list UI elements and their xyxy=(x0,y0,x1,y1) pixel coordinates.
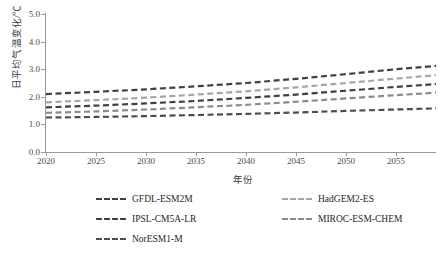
chart-figure: 日平均气温变化/℃ 年份 0.01.02.03.04.05.0 20202025… xyxy=(0,0,446,258)
legend-label: MIROC-ESM-CHEM xyxy=(318,214,402,224)
legend-item[interactable]: GFDL-ESM2M xyxy=(96,194,193,204)
legend-label: HadGEM2-ES xyxy=(318,194,374,204)
series-line xyxy=(46,93,436,113)
series-line xyxy=(46,84,436,107)
legend-item[interactable]: HadGEM2-ES xyxy=(282,194,374,204)
legend-swatch-icon xyxy=(96,198,126,200)
legend-swatch-icon xyxy=(96,218,126,220)
legend-label: NorESM1-M xyxy=(132,234,183,244)
legend-swatch-icon xyxy=(96,238,126,240)
chart-legend: GFDL-ESM2MHadGEM2-ESIPSL-CM5A-LRMIROC-ES… xyxy=(96,194,446,252)
legend-item[interactable]: MIROC-ESM-CHEM xyxy=(282,214,402,224)
legend-label: IPSL-CM5A-LR xyxy=(132,214,196,224)
series-line xyxy=(46,108,436,117)
legend-label: GFDL-ESM2M xyxy=(132,194,193,204)
legend-swatch-icon xyxy=(282,218,312,220)
legend-swatch-icon xyxy=(282,198,312,200)
legend-item[interactable]: IPSL-CM5A-LR xyxy=(96,214,196,224)
series-line xyxy=(46,66,436,94)
legend-item[interactable]: NorESM1-M xyxy=(96,234,183,244)
